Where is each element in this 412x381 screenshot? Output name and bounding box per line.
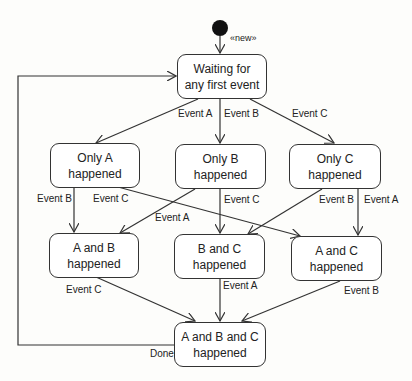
transition-label: Event A (155, 212, 189, 224)
transition-label: Event C (93, 193, 129, 205)
transition-label: Done (150, 348, 174, 360)
state-only-a[interactable]: Only A happened (50, 143, 140, 188)
state-a-and-b[interactable]: A and B happened (49, 233, 139, 278)
state-only-b[interactable]: Only B happened (175, 144, 266, 189)
transition-label: Event C (66, 284, 102, 296)
initial-state-icon (212, 20, 228, 36)
state-b-and-c[interactable]: B and C happened (174, 234, 265, 279)
state-only-c[interactable]: Only C happened (289, 144, 381, 189)
transition-label: Event B (37, 193, 72, 205)
state-a-and-c[interactable]: A and C happened (291, 236, 382, 281)
transition-label: Event A (364, 194, 398, 206)
initial-stereotype-label: «new» (230, 32, 257, 44)
transition-label: Event C (224, 194, 260, 206)
transition-label: Event B (319, 194, 354, 206)
transition-label: Event C (292, 108, 328, 120)
transition-label: Event A (178, 108, 212, 120)
state-waiting[interactable]: Waiting for any first event (177, 54, 267, 99)
transition-label: Event A (223, 280, 257, 292)
transition-label: Event B (224, 108, 259, 120)
state-all[interactable]: A and B and C happened (174, 322, 266, 367)
transition-label: Event B (344, 285, 379, 297)
